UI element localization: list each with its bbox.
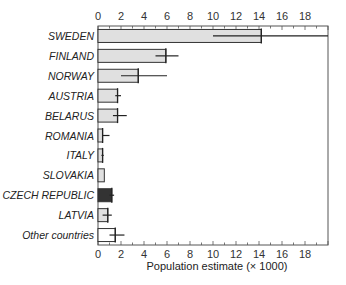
tick-label: 8	[187, 10, 193, 22]
tick-label: 2	[118, 248, 124, 260]
tick-label: 8	[187, 248, 193, 260]
category-label: SWEDEN	[48, 30, 95, 42]
tick-label: 2	[118, 10, 124, 22]
bar-norway	[98, 68, 167, 83]
tick-label: 18	[299, 248, 311, 260]
tick-label: 6	[164, 248, 170, 260]
tick-label: 16	[276, 248, 288, 260]
category-labels: SWEDENFINLANDNORWAYAUSTRIABELARUSROMANIA…	[2, 30, 95, 241]
tick-label: 0	[95, 248, 101, 260]
bar-belarus	[98, 108, 127, 123]
bottom-axis: 024681012141618	[95, 241, 328, 260]
bar-sweden	[98, 28, 328, 43]
category-label: CZECH REPUBLIC	[2, 189, 94, 201]
category-label: Other countries	[22, 229, 95, 241]
category-label: BELARUS	[45, 110, 94, 122]
tick-label: 12	[230, 248, 242, 260]
bar-other-countries	[98, 228, 124, 243]
bar-rect	[98, 169, 104, 182]
tick-label: 14	[253, 248, 265, 260]
tick-label: 0	[95, 10, 101, 22]
bar-czech-republic	[98, 188, 114, 203]
bar-slovakia	[98, 169, 104, 182]
top-axis: 024681012141618	[95, 10, 328, 30]
bar-rect	[98, 89, 118, 102]
bar-finland	[98, 48, 179, 63]
bars	[98, 28, 328, 242]
tick-label: 4	[141, 248, 147, 260]
category-label: FINLAND	[49, 50, 94, 62]
category-label: AUSTRIA	[47, 90, 94, 102]
bar-italy	[98, 148, 104, 163]
tick-label: 16	[276, 10, 288, 22]
bar-rect	[98, 129, 103, 142]
tick-label: 10	[207, 10, 219, 22]
tick-label: 10	[207, 248, 219, 260]
bar-chart: 024681012141618 024681012141618 SWEDENFI…	[0, 0, 346, 285]
x-axis-title: Population estimate (× 1000)	[147, 260, 288, 272]
category-label: ROMANIA	[45, 130, 94, 142]
tick-label: 6	[164, 10, 170, 22]
tick-label: 18	[299, 10, 311, 22]
bar-romania	[98, 128, 110, 143]
bar-austria	[98, 88, 121, 103]
category-label: LATVIA	[59, 209, 94, 221]
category-label: NORWAY	[48, 70, 95, 82]
category-label: ITALY	[67, 149, 95, 161]
category-label: SLOVAKIA	[43, 169, 94, 181]
bar-latvia	[98, 208, 112, 223]
tick-label: 12	[230, 10, 242, 22]
tick-label: 14	[253, 10, 265, 22]
tick-label: 4	[141, 10, 147, 22]
